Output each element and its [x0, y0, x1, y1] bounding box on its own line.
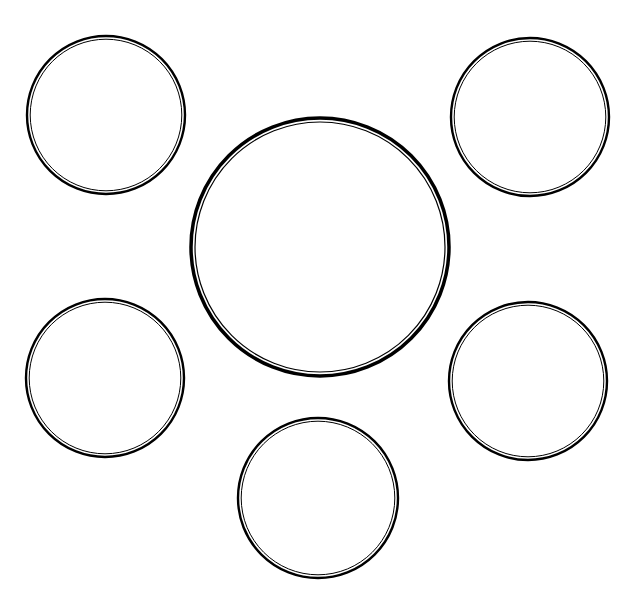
inner-ring	[454, 41, 606, 193]
outer-ring	[191, 118, 449, 376]
center-node	[191, 118, 449, 376]
outer-ring	[449, 302, 607, 460]
outer-ring	[238, 418, 398, 578]
satellite-node-bottom-right	[449, 302, 607, 460]
inner-ring	[452, 305, 604, 457]
satellite-node-top-left	[27, 36, 185, 194]
outer-ring	[27, 36, 185, 194]
satellite-node-bottom-center	[238, 418, 398, 578]
outer-ring	[451, 38, 609, 196]
inner-ring	[29, 302, 181, 454]
inner-ring	[195, 122, 445, 372]
bubble-diagram	[0, 0, 635, 608]
inner-ring	[241, 421, 395, 575]
inner-ring	[30, 39, 182, 191]
outer-ring	[26, 299, 184, 457]
satellite-node-bottom-left	[26, 299, 184, 457]
satellite-node-top-right	[451, 38, 609, 196]
